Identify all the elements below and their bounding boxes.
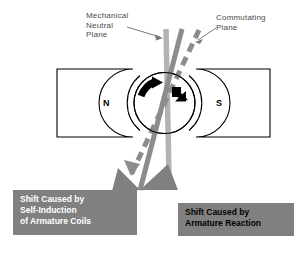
south-pole-piece: [196, 69, 270, 137]
north-pole-label: N: [103, 98, 110, 108]
mechanical-neutral-plane-label: Mechanical Neutral Plane: [86, 11, 128, 40]
callout-armature-reaction: Shift Caused by Armature Reaction: [178, 203, 294, 236]
north-pole-piece: [57, 69, 133, 137]
callout-self-induction: Shift Caused by Self-Induction of Armatu…: [13, 190, 137, 235]
pointer-arrow-icon-mechanical: [127, 27, 163, 41]
pointer-to-left-callout: [112, 168, 140, 191]
dashed-line-arrowhead: [124, 160, 140, 176]
south-pole-label: S: [216, 98, 222, 108]
diagram-canvas: Mechanical Neutral Plane Commutating Pla…: [0, 0, 304, 253]
commutating-plane-label: Commutating Plane: [216, 13, 266, 32]
